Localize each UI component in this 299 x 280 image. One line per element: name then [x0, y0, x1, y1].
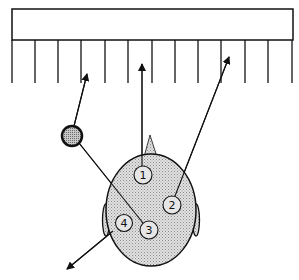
- marker-4: 4: [116, 215, 133, 232]
- wall: [12, 9, 293, 83]
- ball: [62, 126, 82, 146]
- marker-label: 1: [140, 169, 147, 182]
- wall-top-bar: [12, 9, 293, 40]
- marker-2: 2: [163, 196, 181, 214]
- marker-label: 2: [169, 199, 176, 212]
- arrow-from-4-overlay: [67, 231, 113, 269]
- marker-label: 4: [121, 217, 128, 230]
- ball-icon: [62, 126, 82, 146]
- diagram-canvas: 1234: [0, 0, 299, 280]
- arrow-from-2-overlay: [175, 57, 229, 196]
- marker-label: 3: [146, 224, 153, 237]
- marker-1: 1: [134, 166, 152, 184]
- marker-3: 3: [140, 221, 158, 239]
